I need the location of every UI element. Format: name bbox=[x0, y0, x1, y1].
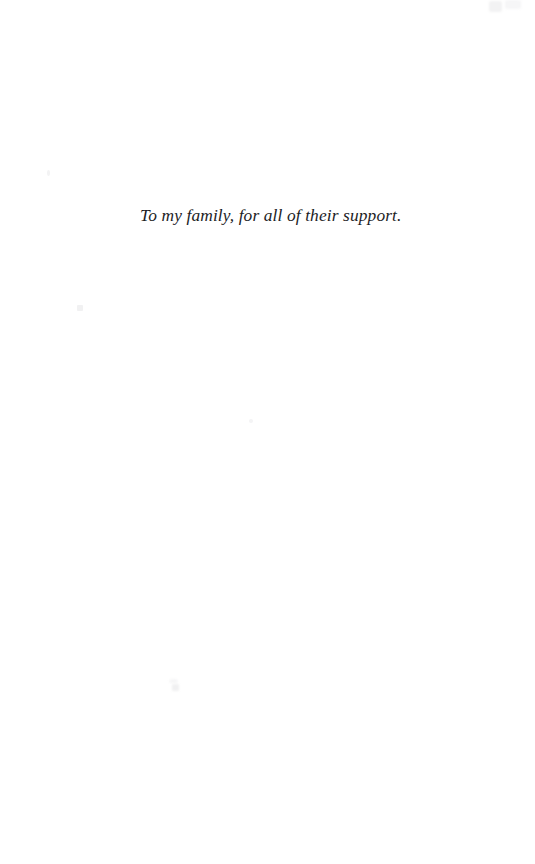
dedication-block: To my family, for all of their support. bbox=[0, 0, 535, 864]
document-page: To my family, for all of their support. bbox=[0, 0, 535, 864]
dedication-text: To my family, for all of their support. bbox=[140, 203, 400, 227]
